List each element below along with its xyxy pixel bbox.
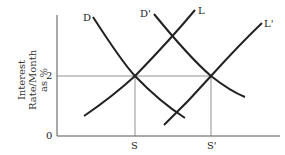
curve-d xyxy=(93,17,185,118)
x-tick-s: S xyxy=(131,141,138,151)
curve-d-prime xyxy=(154,14,245,97)
x-tick-s-prime: S' xyxy=(207,141,217,151)
y-axis-title-line-1: Interest xyxy=(16,50,27,110)
y-axis-title-line-2: Rate/Month xyxy=(27,50,38,110)
y-tick-2: 2 xyxy=(46,71,52,81)
curve-l-prime xyxy=(164,23,262,125)
curve-l xyxy=(84,10,195,116)
curve-label-d-prime: D' xyxy=(140,9,151,19)
y-axis-title: Interest Rate/Month as % xyxy=(2,50,62,110)
curve-label-l: L xyxy=(198,6,205,16)
y-tick-0: 0 xyxy=(46,131,52,141)
curve-label-d: D xyxy=(83,13,91,23)
curve-label-l-prime: L' xyxy=(264,19,273,29)
